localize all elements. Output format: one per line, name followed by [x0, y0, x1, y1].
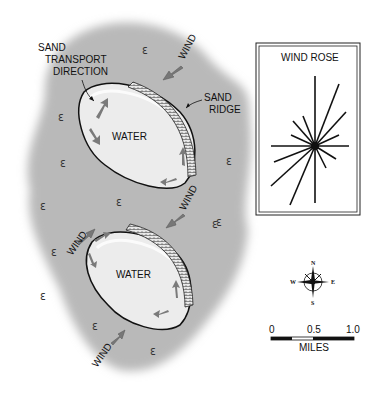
compass-n: N	[311, 260, 316, 266]
svg-text:ℇ: ℇ	[142, 46, 148, 56]
svg-text:SAND: SAND	[38, 42, 66, 53]
svg-text:MILES: MILES	[299, 342, 329, 353]
scale-bar: 0 0.5 1.0 MILES	[269, 324, 360, 353]
compass-s: S	[311, 300, 315, 306]
compass-w: W	[290, 279, 296, 285]
compass: N S E W	[290, 260, 335, 306]
svg-text:ℇ: ℇ	[116, 198, 122, 208]
water-label-upper: WATER	[112, 131, 147, 142]
svg-text:RIDGE: RIDGE	[209, 104, 241, 115]
diagram-canvas: WATER WATER WIND WIND WIND WIND SAND TRA…	[0, 0, 384, 394]
svg-text:ℇ: ℇ	[58, 113, 64, 123]
svg-text:0: 0	[269, 324, 275, 335]
svg-text:ℇ: ℇ	[226, 157, 232, 167]
svg-text:ℇ: ℇ	[40, 292, 46, 302]
compass-e: E	[331, 279, 335, 285]
svg-text:SAND: SAND	[204, 92, 232, 103]
svg-text:ℇ: ℇ	[92, 322, 98, 332]
svg-text:ℇ: ℇ	[40, 202, 46, 212]
water-label-lower: WATER	[116, 269, 151, 280]
svg-text:1.0: 1.0	[346, 324, 360, 335]
svg-text:ℇ: ℇ	[150, 347, 156, 357]
svg-text:ℇ: ℇ	[51, 248, 57, 258]
svg-text:ℇ: ℇ	[216, 218, 222, 228]
svg-text:ℇ: ℇ	[60, 159, 66, 169]
wind-rose: WIND ROSE	[256, 43, 360, 215]
wind-rose-title: WIND ROSE	[281, 52, 339, 63]
svg-text:TRANSPORT: TRANSPORT	[45, 54, 107, 65]
svg-text:DIRECTION: DIRECTION	[53, 66, 108, 77]
svg-text:0.5: 0.5	[307, 324, 321, 335]
